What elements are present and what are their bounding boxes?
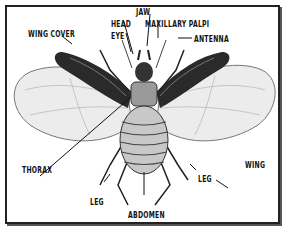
label-abdomen: ABDOMEN: [128, 211, 165, 220]
label-antenna: ANTENNA: [194, 35, 229, 44]
label-wing-cover: WING COVER: [28, 30, 75, 39]
label-maxillary-palpi: MAXILLARY PALPI: [145, 20, 209, 29]
label-leg-left: LEG: [90, 198, 104, 207]
head-shape: [135, 62, 153, 82]
label-thorax: THORAX: [22, 166, 52, 175]
label-leg-right: LEG: [198, 175, 212, 184]
thorax-shape: [131, 82, 157, 106]
abdomen-shape: [120, 106, 168, 174]
label-head: HEAD: [111, 20, 131, 29]
label-eye: EYE: [111, 32, 125, 41]
label-jaw: JAW: [136, 8, 150, 17]
label-wing: WING: [245, 161, 265, 170]
